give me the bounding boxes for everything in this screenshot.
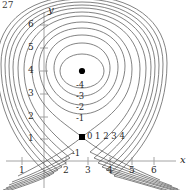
x-tick-4: 4	[107, 166, 113, 175]
contour-label-minus-1: -1	[76, 114, 84, 123]
contour-label-minus-2: -2	[76, 103, 84, 112]
saddle-point	[79, 134, 85, 140]
y-tick-6: 6	[28, 20, 34, 29]
x-tick-3: 3	[85, 166, 91, 175]
local-extremum-point	[79, 68, 85, 74]
x-tick-1: 1	[19, 166, 25, 175]
x-axis-label: x	[180, 154, 186, 165]
contour-level-4-lower-left	[3, 167, 62, 190]
y-axis-label: y	[48, 4, 54, 15]
x-tick-2: 2	[63, 166, 69, 175]
contour-label-saddle-row: 0 1 2 3 4	[87, 131, 125, 141]
contour-label-minus-3: -3	[76, 92, 84, 101]
contour-plot-figure: 27	[0, 0, 194, 190]
x-tick-6: 6	[151, 166, 157, 175]
contour-level-0-right-branch	[82, 137, 160, 180]
y-tick-4: 4	[28, 66, 34, 75]
x-tick-5: 5	[129, 166, 135, 175]
y-tick-1: 1	[28, 134, 34, 143]
contour-label-minus-4: -4	[76, 81, 84, 90]
contour-label-lower-minus-1: -1	[72, 149, 80, 158]
y-tick-5: 5	[28, 43, 34, 52]
y-tick-2: 2	[28, 112, 34, 121]
y-tick-3: 3	[28, 89, 34, 98]
axes-group	[6, 12, 176, 188]
